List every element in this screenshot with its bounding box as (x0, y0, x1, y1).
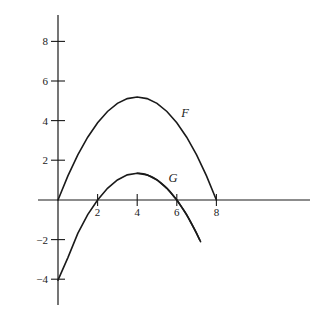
x-tick-label-4: 4 (134, 207, 140, 218)
x-tick-label-6: 6 (174, 207, 180, 218)
curve-f (58, 97, 216, 200)
plot-canvas (0, 0, 324, 318)
y-tick-label-6: 6 (43, 76, 49, 87)
curve-label-f: F (181, 107, 189, 120)
y-tick-label-neg4: −4 (36, 274, 48, 285)
y-tick-label-4: 4 (43, 115, 49, 126)
y-tick-label-neg2: −2 (36, 234, 48, 245)
curve-label-g: G (168, 172, 177, 185)
y-tick-label-8: 8 (43, 36, 49, 47)
curve-g (58, 173, 200, 280)
x-tick-label-2: 2 (95, 207, 101, 218)
x-tick-label-8: 8 (214, 207, 220, 218)
y-tick-label-2: 2 (43, 155, 49, 166)
parabola-graph-figure: 8 6 4 2 −2 −4 2 4 6 8 F G (0, 0, 324, 318)
